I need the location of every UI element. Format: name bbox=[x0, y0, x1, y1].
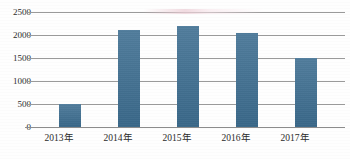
x-axis-baseline bbox=[25, 127, 345, 128]
x-axis-label-2014: 2014年 bbox=[86, 133, 150, 144]
bar-2013 bbox=[59, 104, 81, 127]
x-axis-label-2013: 2013年 bbox=[27, 133, 91, 144]
plot-area bbox=[33, 12, 345, 127]
bar-2014 bbox=[118, 30, 140, 127]
y-tick-mark bbox=[25, 104, 33, 105]
bar-2017 bbox=[295, 58, 317, 127]
y-tick-mark bbox=[25, 12, 33, 13]
x-axis-label-2015: 2015年 bbox=[145, 133, 209, 144]
y-axis: 2500 2000 1500 1000 500 0 bbox=[0, 12, 31, 127]
bar-2015 bbox=[177, 26, 199, 127]
y-tick-mark bbox=[25, 35, 33, 36]
bar-2016 bbox=[236, 33, 258, 127]
x-axis-label-2017: 2017年 bbox=[263, 133, 327, 144]
x-axis-label-2016: 2016年 bbox=[204, 133, 268, 144]
gridline-2500 bbox=[33, 12, 345, 13]
y-tick-mark bbox=[25, 58, 33, 59]
y-tick-mark bbox=[25, 81, 33, 82]
bar-chart: 2500 2000 1500 1000 500 0 2013年 2014年 20… bbox=[0, 0, 350, 159]
